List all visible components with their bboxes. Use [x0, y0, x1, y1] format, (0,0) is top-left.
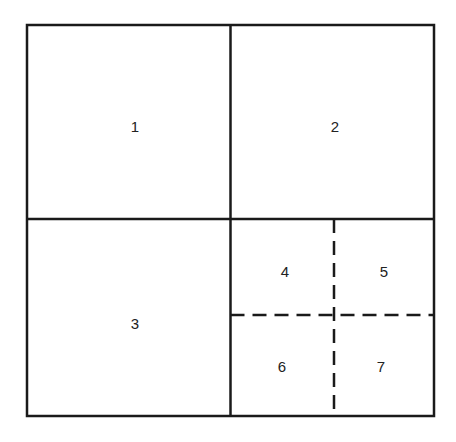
partition-diagram: 1 2 3 4 5 6 7 [0, 0, 456, 442]
region-label-1: 1 [131, 118, 139, 135]
region-label-2: 2 [331, 118, 339, 135]
region-label-3: 3 [131, 315, 139, 332]
region-label-7: 7 [377, 358, 385, 375]
region-label-4: 4 [281, 263, 289, 280]
region-label-6: 6 [278, 358, 286, 375]
region-label-5: 5 [380, 263, 388, 280]
